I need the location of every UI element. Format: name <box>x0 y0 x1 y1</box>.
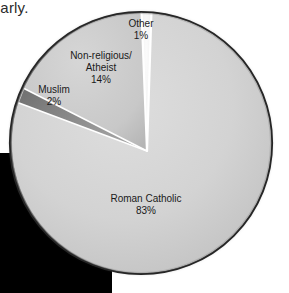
pie-label-other-name: Other <box>128 18 153 29</box>
pie-label-roman-catholic-percent: 83% <box>92 205 200 217</box>
pie-label-non-religious-line1: Non-religious/ <box>70 50 132 61</box>
pie-label-non-religious-line2: Atheist <box>54 62 148 74</box>
pie-chart-screenshot: regularly. <box>0 0 289 293</box>
pie-label-roman-catholic: Roman Catholic 83% <box>92 193 200 217</box>
pie-label-other: Other 1% <box>106 18 176 42</box>
pie-label-muslim: Muslim 2% <box>24 84 84 108</box>
pie-label-muslim-percent: 2% <box>24 96 84 108</box>
pie-label-muslim-name: Muslim <box>38 84 70 95</box>
pie-label-non-religious: Non-religious/ Atheist 14% <box>54 50 148 86</box>
pie-label-roman-catholic-name: Roman Catholic <box>110 193 181 204</box>
pie-label-other-percent: 1% <box>106 30 176 42</box>
